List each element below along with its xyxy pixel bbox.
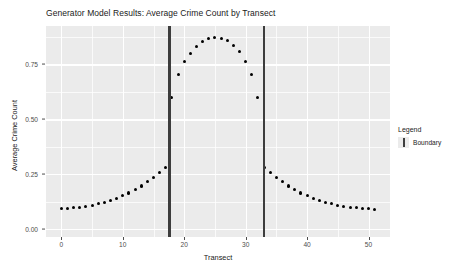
data-point — [355, 206, 358, 209]
y-axis-tick-mark — [42, 174, 45, 175]
boundary-line-icon — [398, 137, 409, 148]
data-point — [269, 171, 272, 174]
chart-title: Generator Model Results: Average Crime C… — [46, 8, 275, 18]
data-point — [330, 202, 333, 205]
boundary-line-right — [263, 26, 265, 237]
x-axis-title: Transect — [46, 253, 390, 262]
gridline-horizontal-major — [46, 229, 390, 230]
legend-item-boundary: Boundary — [398, 137, 452, 148]
data-point — [342, 205, 345, 208]
x-axis-tick-label: 10 — [119, 241, 126, 248]
gridline-vertical-major — [61, 26, 62, 237]
data-point — [164, 166, 167, 169]
y-axis-tick-label: 0.75 — [25, 61, 38, 68]
gridline-vertical-major — [369, 26, 370, 237]
y-axis-tick-mark — [42, 229, 45, 230]
data-point — [220, 37, 223, 40]
data-point — [134, 188, 137, 191]
x-axis-tick-marks — [46, 237, 390, 241]
data-point — [238, 50, 241, 53]
data-point — [78, 206, 81, 209]
data-point — [170, 96, 173, 99]
gridline-vertical-major — [123, 26, 124, 237]
y-axis-tick-mark — [42, 64, 45, 65]
data-point — [361, 207, 364, 210]
gridline-vertical-major — [246, 26, 247, 237]
y-axis-tick-label: 0.25 — [25, 171, 38, 178]
x-axis-tick-label: 40 — [303, 241, 310, 248]
data-point — [293, 188, 296, 191]
gridline-vertical-minor — [154, 26, 155, 237]
gridline-horizontal-minor — [46, 37, 390, 38]
data-point — [256, 96, 259, 99]
x-axis-tick-mark — [123, 237, 124, 240]
x-axis-tick-label: 50 — [365, 241, 372, 248]
x-axis-tick-label: 0 — [60, 241, 64, 248]
data-point — [152, 176, 155, 179]
data-point — [127, 191, 130, 194]
gridline-horizontal-major — [46, 64, 390, 65]
data-point — [97, 202, 100, 205]
x-axis-tick-mark — [184, 237, 185, 240]
y-axis-title: Average Crime Count — [10, 81, 19, 191]
data-point — [140, 184, 143, 187]
gridline-vertical-minor — [276, 26, 277, 237]
x-axis-tick-label: 20 — [181, 241, 188, 248]
y-axis-tick-labels: 0.000.250.500.75 — [0, 26, 38, 237]
data-point — [72, 206, 75, 209]
gridline-horizontal-major — [46, 174, 390, 175]
x-axis-tick-mark — [246, 237, 247, 240]
data-point — [250, 73, 253, 76]
data-point — [324, 201, 327, 204]
data-point — [115, 197, 118, 200]
data-point — [349, 206, 352, 209]
data-point — [195, 45, 198, 48]
data-point — [207, 37, 210, 40]
legend-title: Legend — [398, 126, 452, 133]
y-axis-tick-mark — [42, 119, 45, 120]
legend: Legend Boundary — [398, 126, 452, 148]
data-point — [226, 39, 229, 42]
y-axis-tick-label: 0.50 — [25, 116, 38, 123]
data-point — [287, 184, 290, 187]
x-axis-tick-mark — [369, 237, 370, 240]
gridline-horizontal-major — [46, 119, 390, 120]
data-point — [84, 205, 87, 208]
legend-item-label: Boundary — [413, 139, 441, 146]
data-point — [213, 36, 216, 39]
chart-container: Generator Model Results: Average Crime C… — [0, 0, 452, 280]
boundary-line-left — [168, 26, 170, 237]
data-point — [299, 191, 302, 194]
x-axis-tick-labels: 01020304050 — [46, 241, 390, 253]
data-point — [275, 176, 278, 179]
data-point — [103, 201, 106, 204]
data-point — [91, 204, 94, 207]
data-point — [281, 180, 284, 183]
data-point — [232, 44, 235, 47]
gridline-horizontal-minor — [46, 147, 390, 148]
data-point — [312, 197, 315, 200]
x-axis-tick-mark — [307, 237, 308, 240]
data-point — [66, 207, 69, 210]
plot-panel — [46, 26, 390, 237]
data-point — [189, 52, 192, 55]
data-point — [146, 180, 149, 183]
gridline-vertical-major — [184, 26, 185, 237]
data-point — [336, 204, 339, 207]
gridline-vertical-minor — [215, 26, 216, 237]
x-axis-tick-label: 30 — [242, 241, 249, 248]
x-axis-tick-mark — [61, 237, 62, 240]
data-point — [318, 199, 321, 202]
data-point — [177, 73, 180, 76]
y-axis-tick-marks — [42, 26, 46, 237]
gridline-vertical-major — [307, 26, 308, 237]
gridline-horizontal-minor — [46, 92, 390, 93]
data-point — [201, 40, 204, 43]
y-axis-tick-label: 0.00 — [25, 226, 38, 233]
data-point — [373, 208, 376, 211]
